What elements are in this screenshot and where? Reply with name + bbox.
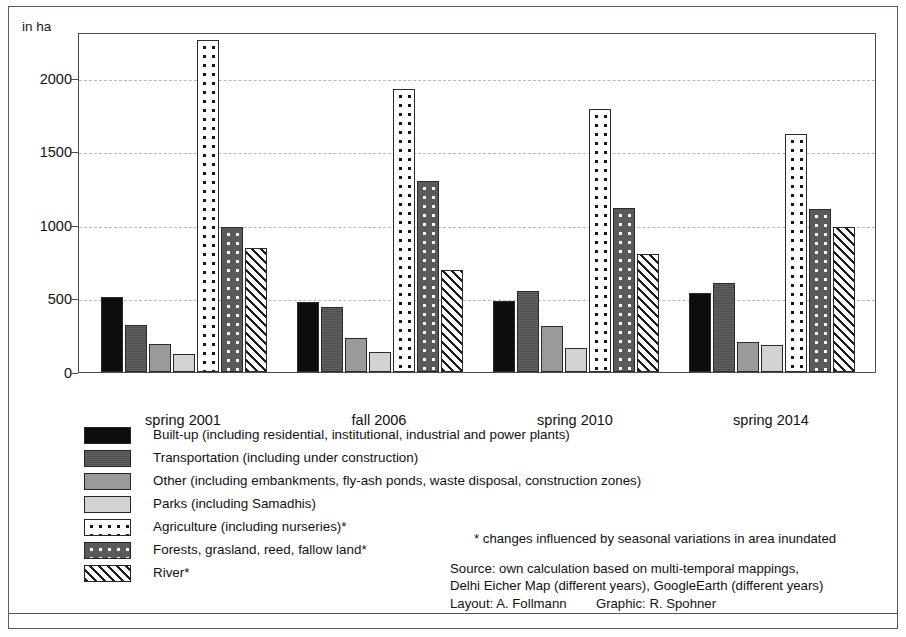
bar-group xyxy=(101,34,267,372)
footnote-asterisk: * changes influenced by seasonal variati… xyxy=(474,531,836,546)
x-axis-label: spring 2010 xyxy=(537,412,613,428)
bar-agri xyxy=(785,134,807,372)
bar-other xyxy=(149,344,171,372)
bar-parks xyxy=(761,345,783,372)
legend-swatch-parks xyxy=(84,496,131,513)
bar-transport xyxy=(321,307,343,372)
bar-agri xyxy=(197,40,219,372)
y-axis-unit-label: in ha xyxy=(22,19,51,34)
legend-item-other: Other (including embankments, fly-ash po… xyxy=(84,470,504,493)
y-tick-label: 1500 xyxy=(40,144,72,160)
legend-item-agri: Agriculture (including nurseries)* xyxy=(84,516,504,539)
legend-swatch-river xyxy=(84,565,131,582)
source-line-2: Delhi Eicher Map (different years), Goog… xyxy=(450,577,823,594)
y-tick-label: 500 xyxy=(48,291,72,307)
bar-transport xyxy=(517,291,539,372)
bar-parks xyxy=(369,352,391,372)
y-tick-mark xyxy=(71,152,78,153)
source-line-1: Source: own calculation based on multi-t… xyxy=(450,560,823,577)
credit-gap xyxy=(567,596,596,611)
bar-agri xyxy=(589,109,611,372)
legend-item-river: River* xyxy=(84,562,504,585)
bar-river xyxy=(833,227,855,372)
legend-label-agri: Agriculture (including nurseries)* xyxy=(153,520,347,535)
bar-forest xyxy=(417,181,439,372)
bar-group xyxy=(689,34,855,372)
bar-other xyxy=(737,342,759,372)
bar-parks xyxy=(565,348,587,372)
bar-forest xyxy=(221,227,243,372)
y-tick-mark xyxy=(71,226,78,227)
legend-label-builtup: Built-up (including residential, institu… xyxy=(153,428,570,443)
legend-label-parks: Parks (including Samadhis) xyxy=(153,497,316,512)
legend-label-transport: Transportation (including under construc… xyxy=(153,451,418,466)
credit-line: Layout: A. Follmann Graphic: R. Spohner xyxy=(450,595,823,612)
bar-river xyxy=(441,270,463,372)
legend-label-river: River* xyxy=(153,566,189,581)
credit-graphic: Graphic: R. Spohner xyxy=(596,596,716,611)
y-axis-tick-labels: 0500100015002000 xyxy=(24,33,72,373)
bar-groups xyxy=(79,34,875,372)
y-tick-label: 1000 xyxy=(40,218,72,234)
y-tick-mark xyxy=(71,299,78,300)
bar-river xyxy=(245,248,267,372)
legend-item-parks: Parks (including Samadhis) xyxy=(84,493,504,516)
bar-parks xyxy=(173,354,195,372)
bar-river xyxy=(637,254,659,372)
bar-transport xyxy=(125,325,147,372)
bottom-rule xyxy=(9,613,897,614)
bar-forest xyxy=(613,208,635,372)
legend-item-builtup: Built-up (including residential, institu… xyxy=(84,424,504,447)
legend-swatch-other xyxy=(84,473,131,490)
legend-swatch-builtup xyxy=(84,427,131,444)
figure-root: 0500100015002000 in ha spring 2001fall 2… xyxy=(0,0,906,637)
bar-builtup xyxy=(297,302,319,372)
y-tick-label: 2000 xyxy=(40,71,72,87)
plot-area xyxy=(78,33,876,373)
bar-builtup xyxy=(101,297,123,372)
bar-other xyxy=(345,338,367,372)
source-block: Source: own calculation based on multi-t… xyxy=(450,560,823,612)
bar-builtup xyxy=(689,293,711,372)
bar-group xyxy=(493,34,659,372)
legend-label-other: Other (including embankments, fly-ash po… xyxy=(153,474,641,489)
x-axis-label: spring 2014 xyxy=(733,412,809,428)
legend-item-transport: Transportation (including under construc… xyxy=(84,447,504,470)
legend: Built-up (including residential, institu… xyxy=(84,424,504,585)
legend-item-forest: Forests, grasland, reed, fallow land* xyxy=(84,539,504,562)
bar-transport xyxy=(713,283,735,372)
legend-swatch-forest xyxy=(84,542,131,559)
legend-label-forest: Forests, grasland, reed, fallow land* xyxy=(153,543,367,558)
bar-group xyxy=(297,34,463,372)
bar-other xyxy=(541,326,563,372)
y-tick-mark xyxy=(71,79,78,80)
bar-forest xyxy=(809,209,831,372)
legend-swatch-agri xyxy=(84,519,131,536)
legend-swatch-transport xyxy=(84,450,131,467)
credit-layout: Layout: A. Follmann xyxy=(450,596,567,611)
y-tick-mark xyxy=(71,373,78,374)
plot-wrap: spring 2001fall 2006spring 2010spring 20… xyxy=(78,33,876,373)
bar-builtup xyxy=(493,301,515,372)
bar-agri xyxy=(393,89,415,372)
